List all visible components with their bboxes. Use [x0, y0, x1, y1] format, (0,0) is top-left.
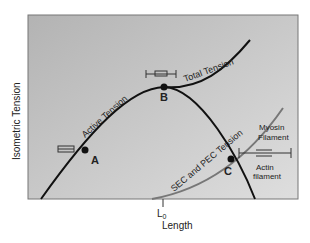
point-a: [82, 147, 89, 154]
point-b-label: B: [160, 91, 168, 103]
point-c-label: C: [224, 165, 232, 177]
x-axis-label: Length: [162, 220, 193, 231]
actin-label-2: filament: [253, 172, 282, 181]
point-c: [228, 156, 235, 163]
myosin-label: Myosin: [259, 123, 284, 132]
myosin-label-2: Filament: [258, 133, 289, 142]
point-a-label: A: [91, 154, 99, 166]
length-tension-diagram: Isometric Tension Length L0 Active Tensi…: [0, 0, 310, 243]
l0-label: L0: [157, 208, 167, 220]
actin-label: Actin: [256, 163, 274, 172]
y-axis-label: Isometric Tension: [11, 82, 22, 160]
point-b: [161, 84, 168, 91]
